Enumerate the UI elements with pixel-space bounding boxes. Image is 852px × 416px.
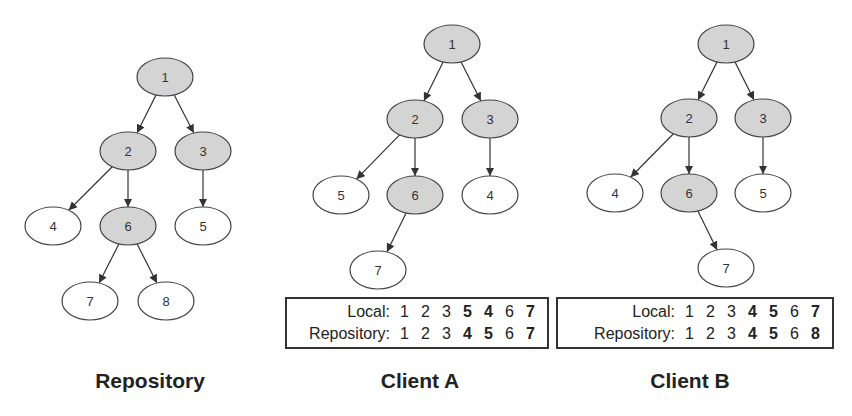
client-a-tree: 1235647	[313, 25, 518, 289]
repository-caption: Repository	[60, 369, 240, 393]
svg-text:7: 7	[722, 261, 729, 276]
order-value: 2	[415, 301, 436, 323]
order-value: 6	[784, 301, 805, 323]
row-label: Repository:	[594, 323, 675, 345]
svg-text:8: 8	[162, 294, 169, 309]
order-value: 2	[700, 323, 721, 345]
edge-1-3	[461, 62, 481, 101]
svg-text:4: 4	[611, 186, 618, 201]
order-value: 3	[721, 323, 742, 345]
node-8: 8	[138, 282, 194, 320]
edge-1-2	[698, 62, 717, 100]
order-value: 4	[742, 301, 763, 323]
local-row: Local:1235467	[293, 301, 541, 323]
node-1: 1	[137, 58, 193, 96]
order-value: 5	[763, 301, 784, 323]
edge-6-7	[99, 244, 119, 283]
node-5: 5	[735, 174, 791, 212]
node-6: 6	[661, 174, 717, 212]
edge-6-8	[137, 244, 157, 283]
node-3: 3	[462, 100, 518, 138]
node-2: 2	[661, 99, 717, 137]
order-value: 2	[415, 323, 436, 345]
repository-row: Repository:1234568	[564, 323, 826, 345]
edge-6-7	[387, 213, 406, 252]
svg-text:7: 7	[86, 294, 93, 309]
svg-text:6: 6	[411, 188, 418, 203]
edge-6-7	[698, 211, 717, 250]
svg-text:1: 1	[722, 37, 729, 52]
node-2: 2	[100, 132, 156, 170]
client-a-order-table: Local:1235467 Repository:1234567	[285, 297, 549, 349]
svg-text:5: 5	[337, 188, 344, 203]
node-3: 3	[735, 99, 791, 137]
node-2: 2	[387, 100, 443, 138]
node-3: 3	[175, 132, 231, 170]
edge-1-2	[137, 95, 156, 133]
repository-row: Repository:1234567	[293, 323, 541, 345]
client-b-tree: 1234657	[587, 25, 791, 287]
order-value: 4	[742, 323, 763, 345]
row-label: Local:	[347, 301, 390, 323]
local-row: Local:1234567	[564, 301, 826, 323]
svg-text:2: 2	[124, 144, 131, 159]
order-value: 5	[763, 323, 784, 345]
order-value: 5	[457, 301, 478, 323]
edge-2-4	[631, 134, 674, 177]
svg-text:1: 1	[448, 37, 455, 52]
edge-1-3	[174, 95, 194, 133]
order-value: 1	[394, 323, 415, 345]
order-value: 1	[679, 323, 700, 345]
row-label: Repository:	[309, 323, 390, 345]
svg-text:5: 5	[199, 219, 206, 234]
node-5: 5	[313, 176, 369, 214]
order-value: 6	[499, 323, 520, 345]
svg-text:5: 5	[759, 186, 766, 201]
node-7: 7	[698, 249, 754, 287]
row-label: Local:	[632, 301, 675, 323]
order-value: 1	[394, 301, 415, 323]
node-6: 6	[100, 207, 156, 245]
order-value: 2	[700, 301, 721, 323]
node-1: 1	[698, 25, 754, 63]
node-7: 7	[350, 251, 406, 289]
order-value: 3	[721, 301, 742, 323]
order-value: 7	[805, 301, 826, 323]
svg-text:1: 1	[161, 70, 168, 85]
edge-2-5	[356, 135, 399, 179]
node-4: 4	[25, 207, 81, 245]
order-value: 3	[436, 323, 457, 345]
svg-text:2: 2	[411, 112, 418, 127]
order-value: 5	[478, 323, 499, 345]
order-value: 8	[805, 323, 826, 345]
svg-text:6: 6	[124, 219, 131, 234]
tree-diagrams: 12346578 1235647 1234657	[0, 0, 852, 416]
node-4: 4	[462, 176, 518, 214]
node-5: 5	[175, 207, 231, 245]
svg-text:6: 6	[685, 186, 692, 201]
node-6: 6	[387, 176, 443, 214]
client-b-order-table: Local:1234567 Repository:1234568	[556, 297, 834, 349]
order-value: 7	[520, 323, 541, 345]
svg-text:3: 3	[486, 112, 493, 127]
node-7: 7	[62, 282, 118, 320]
svg-text:2: 2	[685, 111, 692, 126]
svg-text:7: 7	[374, 263, 381, 278]
edge-2-4	[69, 167, 113, 211]
repository-tree: 12346578	[25, 58, 231, 320]
svg-text:3: 3	[199, 144, 206, 159]
node-1: 1	[424, 25, 480, 63]
order-value: 1	[679, 301, 700, 323]
edge-1-3	[735, 62, 754, 100]
svg-text:4: 4	[49, 219, 56, 234]
order-value: 6	[499, 301, 520, 323]
edge-1-2	[424, 62, 443, 101]
order-value: 4	[457, 323, 478, 345]
order-value: 6	[784, 323, 805, 345]
svg-text:3: 3	[759, 111, 766, 126]
order-value: 3	[436, 301, 457, 323]
client-b-caption: Client B	[600, 369, 780, 393]
order-value: 7	[520, 301, 541, 323]
svg-text:4: 4	[486, 188, 493, 203]
node-4: 4	[587, 174, 643, 212]
